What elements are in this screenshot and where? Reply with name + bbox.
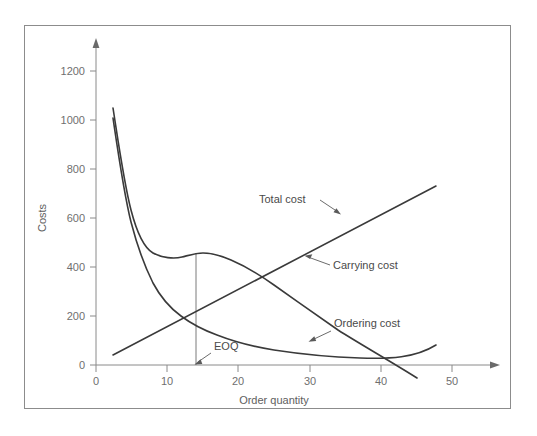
annotation-carrying-cost: Carrying cost [305,254,398,271]
x-tick-label-10: 10 [161,375,173,387]
annotation-ordering-cost: Ordering cost [309,317,401,342]
x-tick-label-0: 0 [93,375,99,387]
leader-carrying-cost [308,257,330,265]
annotation-eoq: EOQ [195,340,239,364]
y-tick-label-1200: 1200 [61,65,85,77]
leader-arrow-ordering-cost [309,336,317,341]
y-tick-labels: 0 200 400 600 800 1000 1200 [61,65,85,371]
series-label-total-cost: Total cost [259,193,305,205]
chart-figure: 0 200 400 600 800 1000 1200 0 10 20 30 4… [0,0,537,436]
series-label-ordering-cost: Ordering cost [334,317,400,329]
y-tick-label-400: 400 [67,261,85,273]
curve-total-cost [113,108,417,378]
y-tick-label-200: 200 [67,310,85,322]
series-label-carrying-cost: Carrying cost [333,259,398,271]
leader-arrow-total-cost [334,208,342,214]
x-axis-title: Order quantity [239,394,309,406]
annotation-label-eoq: EOQ [214,340,239,352]
y-tick-label-600: 600 [67,212,85,224]
x-tick-label-50: 50 [446,375,458,387]
y-tick-label-0: 0 [79,359,85,371]
x-tick-label-40: 40 [375,375,387,387]
x-tick-label-20: 20 [232,375,244,387]
y-tick-marks [90,71,96,365]
x-tick-label-30: 30 [304,375,316,387]
y-tick-label-800: 800 [67,163,85,175]
x-axis-arrow-icon [490,362,500,369]
y-tick-label-1000: 1000 [61,114,85,126]
y-axis-arrow-icon [93,38,100,48]
annotation-total-cost: Total cost [259,193,341,215]
x-axis [96,362,500,369]
y-axis-title: Costs [36,203,48,232]
x-tick-labels: 0 10 20 30 40 50 [93,375,458,387]
chart-canvas: 0 200 400 600 800 1000 1200 0 10 20 30 4… [0,0,537,436]
